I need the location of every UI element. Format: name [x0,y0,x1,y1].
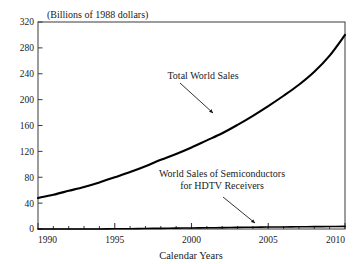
y-tick-label: 200 [20,95,35,105]
annotation-label: Total World Sales [167,70,238,81]
y-tick-label: 240 [20,69,35,79]
x-tick-label: 2010 [326,235,345,245]
plot-area-frame [38,22,345,229]
y-tick-label: 320 [20,17,35,27]
y-tick-label: 80 [25,173,35,183]
y-tick-label: 120 [20,147,35,157]
y-tick-label: 160 [20,121,35,131]
y-tick-label: 40 [25,199,35,209]
x-tick-label: 1995 [105,235,124,245]
annotation-line: for HDTV Receivers [180,180,264,191]
sales-forecast-line-chart: 04080120160200240280320 1990199520002005… [0,0,357,264]
annotation-line: Total World Sales [167,70,238,81]
x-tick-label: 1990 [38,235,57,245]
chart-container: 04080120160200240280320 1990199520002005… [0,0,357,264]
y-tick-label: 280 [20,43,35,53]
y-tick-label: 0 [29,224,34,234]
x-axis-title: Calendar Years [159,250,223,261]
y-axis-unit-label: (Billions of 1988 dollars) [47,9,148,21]
annotation-line: World Sales of Semiconductors [159,168,285,179]
x-tick-label: 2005 [259,235,278,245]
x-tick-label: 2000 [182,235,201,245]
